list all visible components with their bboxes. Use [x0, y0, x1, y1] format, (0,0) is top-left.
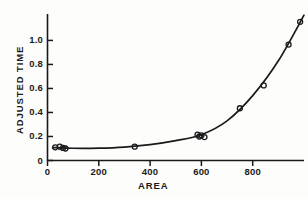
x-tick-label-0: 0	[28, 166, 68, 177]
fitted-curve	[53, 15, 304, 148]
x-axis-title: AREA	[138, 180, 169, 191]
x-tick-label-2: 400	[130, 166, 170, 177]
y-axis-ticks	[48, 40, 54, 160]
x-tick-label-4: 800	[233, 166, 273, 177]
y-axis-title: ADJUSTED TIME	[14, 46, 25, 134]
y-tick-label-0: 0	[0, 155, 43, 166]
chart-figure: 00.20.40.60.81.0 0200400600800 ADJUSTED …	[0, 0, 308, 198]
x-tick-label-1: 200	[79, 166, 119, 177]
data-point-group	[53, 19, 303, 151]
x-tick-label-3: 600	[181, 166, 221, 177]
y-tick-label-5: 1.0	[0, 34, 43, 45]
